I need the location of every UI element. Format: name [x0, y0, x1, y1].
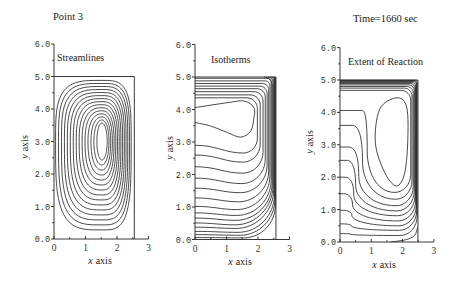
y-tick-label: 2.0: [35, 170, 50, 180]
streamline-contour: [94, 120, 109, 165]
x-tick-label: 0: [52, 243, 57, 253]
reaction-contour: [340, 83, 416, 221]
streamline-contour: [97, 123, 107, 160]
streamline-contours: [56, 80, 132, 230]
y-tick-label: 6.0: [321, 44, 336, 54]
x-tick-label: 0: [338, 246, 343, 256]
y-tick-label: 2.0: [321, 173, 336, 183]
reaction-contour: [375, 98, 408, 186]
y-tick-label: 1.0: [176, 203, 191, 213]
x-axis-symbol: x: [371, 259, 377, 270]
panel-extent-of-reaction: 0.01.02.03.04.05.06.00123 Extent of Reac…: [304, 44, 437, 270]
axes: 0.01.02.03.04.05.06.00123: [35, 40, 151, 253]
figure: Point 3 Time=1660 sec 0.01.02.03.04.05.0…: [0, 0, 458, 292]
y-axis-label: yaxis: [164, 136, 175, 161]
time-label: Time=1660 sec: [353, 13, 418, 24]
x-axis-label: xaxis: [227, 256, 252, 267]
y-tick-label: 6.0: [176, 41, 191, 51]
x-tick-label: 3: [432, 246, 437, 256]
x-tick-label: 3: [146, 243, 151, 253]
x-axis-text: axis: [380, 259, 396, 270]
x-axis-text: axis: [236, 256, 252, 267]
x-tick-label: 0: [193, 244, 198, 254]
x-tick-label: 1: [83, 243, 88, 253]
isotherm-contour: [195, 84, 269, 202]
y-tick-label: 1.0: [321, 206, 336, 216]
y-tick-label: 3.0: [35, 138, 50, 148]
x-tick-label: 2: [256, 244, 261, 254]
point-label: Point 3: [53, 11, 83, 22]
panel-streamlines: 0.01.02.03.04.05.06.00123 Streamlines xa…: [19, 40, 151, 266]
panel-title: Extent of Reaction: [348, 56, 423, 67]
x-axis-symbol: x: [87, 255, 93, 266]
y-axis-symbol: y: [304, 149, 315, 155]
panel-isotherms: 0.01.02.03.04.05.06.00123 Isotherms xaxi…: [164, 41, 292, 268]
isotherm-contour: [195, 95, 260, 162]
y-tick-label: 4.0: [321, 108, 336, 118]
y-tick-label: 4.0: [35, 105, 50, 115]
isotherm-contour: [195, 77, 274, 232]
y-tick-label: 0.0: [176, 236, 191, 246]
reaction-contour: [340, 84, 415, 216]
reaction-contour: [340, 82, 416, 226]
isotherm-contour: [195, 101, 255, 137]
axes: 0.01.02.03.04.05.06.00123: [321, 44, 437, 256]
isotherm-contour: [195, 77, 273, 225]
reaction-contour: [340, 86, 413, 205]
x-tick-label: 1: [369, 246, 374, 256]
x-tick-label: 2: [400, 246, 405, 256]
y-axis-label: yaxis: [19, 135, 30, 160]
y-axis-label: yaxis: [304, 130, 315, 155]
x-axis-label: xaxis: [87, 255, 112, 266]
x-axis-text: axis: [96, 255, 112, 266]
isotherm-contours: [195, 77, 275, 238]
y-tick-label: 5.0: [321, 76, 336, 86]
y-tick-label: 0.0: [35, 235, 50, 245]
x-axis-symbol: x: [227, 256, 233, 267]
y-tick-label: 2.0: [176, 171, 191, 181]
axis-lines: [340, 48, 434, 242]
y-tick-label: 3.0: [176, 138, 191, 148]
y-tick-label: 5.0: [176, 73, 191, 83]
x-axis-label: xaxis: [371, 259, 396, 270]
x-tick-label: 1: [224, 244, 229, 254]
y-axis-text: axis: [164, 136, 175, 152]
panel-title: Isotherms: [211, 54, 251, 65]
x-tick-label: 2: [115, 243, 120, 253]
y-axis-text: axis: [304, 130, 315, 146]
y-axis-symbol: y: [164, 155, 175, 161]
y-axis-symbol: y: [19, 154, 30, 160]
y-tick-label: 1.0: [35, 203, 50, 213]
extent-contours: [340, 80, 418, 242]
y-axis-text: axis: [19, 135, 30, 151]
y-tick-label: 4.0: [176, 106, 191, 116]
panel-title: Streamlines: [57, 52, 104, 63]
x-tick-label: 3: [287, 244, 292, 254]
y-tick-label: 5.0: [35, 73, 50, 83]
y-tick-label: 3.0: [321, 141, 336, 151]
y-tick-label: 6.0: [35, 40, 50, 50]
isotherm-contour: [195, 77, 274, 228]
y-tick-label: 0.0: [321, 238, 336, 248]
